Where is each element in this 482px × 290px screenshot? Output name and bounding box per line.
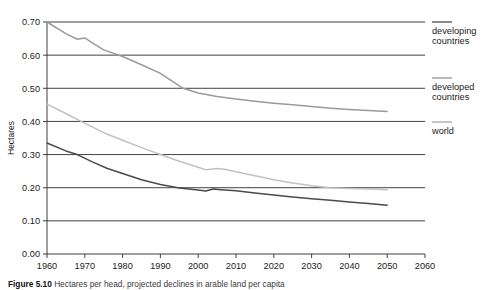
figure-caption-label: Figure 5.10 xyxy=(8,279,52,289)
legend-label-2: world xyxy=(431,126,454,136)
figure-caption-text: Hectares per head, projected declines in… xyxy=(54,279,285,289)
x-tick-label: 1960 xyxy=(37,261,57,271)
y-tick-label: 0.00 xyxy=(22,249,40,259)
y-tick-label: 0.50 xyxy=(22,84,40,94)
x-tick-label: 2020 xyxy=(264,261,284,271)
x-tick-label: 2050 xyxy=(377,261,397,271)
x-tick-label: 2010 xyxy=(226,261,246,271)
series-line-developing-countries xyxy=(47,22,387,111)
x-tick-label: 1970 xyxy=(75,261,95,271)
legend-label-1-line2: countries xyxy=(432,92,470,102)
series-line-developed-countries xyxy=(47,104,387,190)
line-chart: 0.000.100.200.300.400.500.600.7019601970… xyxy=(0,0,482,276)
figure-container: 0.000.100.200.300.400.500.600.7019601970… xyxy=(0,0,482,290)
x-tick-label: 2030 xyxy=(301,261,321,271)
legend-label-0: developing xyxy=(432,26,476,36)
x-tick-label: 2000 xyxy=(188,261,208,271)
x-tick-label: 1990 xyxy=(150,261,170,271)
x-tick-label: 2040 xyxy=(339,261,359,271)
y-tick-label: 0.70 xyxy=(22,17,40,27)
legend-label-1: developed xyxy=(432,82,474,92)
y-tick-label: 0.10 xyxy=(22,216,40,226)
y-axis-label: Hectares xyxy=(6,121,16,155)
x-tick-label: 1980 xyxy=(112,261,132,271)
y-tick-label: 0.30 xyxy=(22,150,40,160)
y-tick-label: 0.20 xyxy=(22,183,40,193)
y-tick-label: 0.60 xyxy=(22,51,40,61)
legend-label-0-line2: countries xyxy=(432,36,470,46)
x-tick-label: 2060 xyxy=(415,261,435,271)
y-tick-label: 0.40 xyxy=(22,117,40,127)
figure-caption: Figure 5.10 Hectares per head, projected… xyxy=(8,279,482,290)
series-line-world xyxy=(47,143,387,205)
